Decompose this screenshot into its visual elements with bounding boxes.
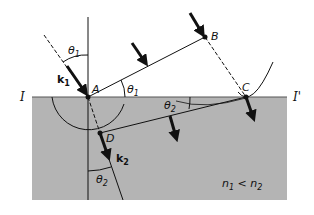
label-k1: k1 xyxy=(57,73,70,88)
label-theta1-wavefront: θ1 xyxy=(127,83,139,98)
point-b xyxy=(203,35,208,40)
label-theta1-top: θ1 xyxy=(68,44,80,59)
point-d xyxy=(98,131,103,136)
point-a xyxy=(86,95,91,100)
label-point-c: C xyxy=(242,81,250,94)
refraction-diagram: I I' A B C D k1 k2 θ1 θ1 θ2 θ2 n1 < n2 xyxy=(0,0,314,215)
incident-arrow-mid xyxy=(132,43,145,62)
label-point-d: D xyxy=(106,132,114,145)
label-point-b: B xyxy=(211,30,219,43)
point-c xyxy=(244,95,249,100)
incident-arrow-b xyxy=(190,13,202,33)
ray-bc-dashed xyxy=(205,37,246,97)
label-point-a: A xyxy=(91,83,100,96)
label-interface-right: I' xyxy=(292,90,301,104)
theta1-arc-wavefront xyxy=(121,80,125,97)
label-index-condition: n1 < n2 xyxy=(222,177,262,192)
incident-wavefront xyxy=(88,37,205,97)
label-interface-left: I xyxy=(19,90,25,104)
